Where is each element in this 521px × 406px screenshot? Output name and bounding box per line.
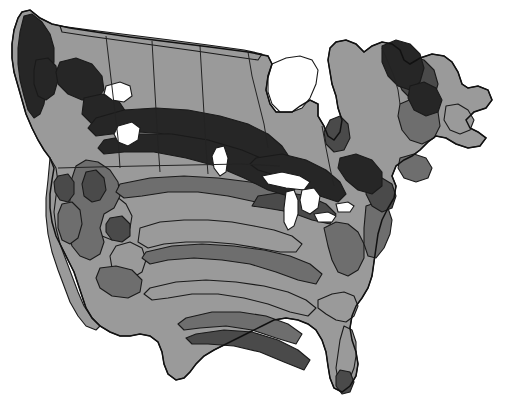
north-america-zone-map [0,0,521,406]
map-figure [0,0,521,406]
zone-medium-sierra [58,202,82,244]
zone-darkest-alaska-interior [34,58,58,100]
